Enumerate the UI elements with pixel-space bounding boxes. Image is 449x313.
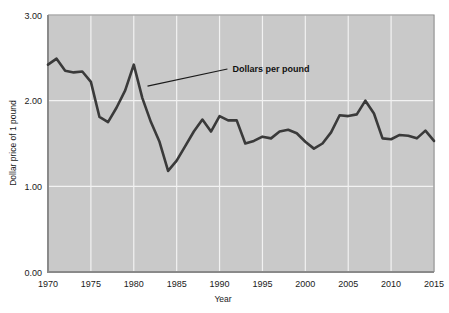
x-tick-label: 1980 xyxy=(124,279,144,289)
x-axis-title: Year xyxy=(214,294,231,304)
x-tick-label: 2010 xyxy=(381,279,401,289)
x-tick-label: 2015 xyxy=(424,279,444,289)
line-chart: 1970197519801985199019952000200520102015… xyxy=(0,0,449,313)
x-tick-label: 1985 xyxy=(167,279,187,289)
x-tick-label: 1995 xyxy=(252,279,272,289)
x-tick-label: 1990 xyxy=(210,279,230,289)
x-tick-label: 1970 xyxy=(38,279,58,289)
chart-figure: 1970197519801985199019952000200520102015… xyxy=(0,0,449,313)
y-axis-title: Dollar price of 1 pound xyxy=(8,100,18,186)
y-tick-label: 0.00 xyxy=(24,268,42,278)
y-tick-label: 1.00 xyxy=(24,182,42,192)
annotation-label: Dollars per pound xyxy=(232,64,309,74)
plot-area-background xyxy=(48,15,434,272)
y-tick-label: 3.00 xyxy=(24,11,42,21)
y-tick-label: 2.00 xyxy=(24,96,42,106)
x-tick-label: 1975 xyxy=(81,279,101,289)
x-tick-label: 2000 xyxy=(295,279,315,289)
x-tick-label: 2005 xyxy=(338,279,358,289)
